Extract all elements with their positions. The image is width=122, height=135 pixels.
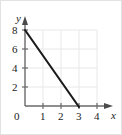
coordinate-plane-figure: 8 6 4 2 0 1 2 3 4 y x [0, 0, 122, 135]
y-tick-label-4: 4 [12, 63, 18, 74]
y-tick-label-6: 6 [12, 44, 18, 55]
y-axis-arrowhead [22, 16, 28, 25]
x-tick-label-3: 3 [76, 111, 82, 122]
y-tick-label-8: 8 [12, 25, 18, 36]
y-tick-label-2: 2 [12, 82, 18, 93]
x-tick-label-2: 2 [58, 111, 64, 122]
x-tick-label-4: 4 [94, 111, 100, 122]
x-axis-label: x [111, 110, 116, 121]
x-tick-label-1: 1 [40, 111, 46, 122]
origin-label-0: 0 [14, 111, 20, 122]
y-axis-label: y [16, 13, 21, 24]
x-axis [25, 103, 113, 109]
